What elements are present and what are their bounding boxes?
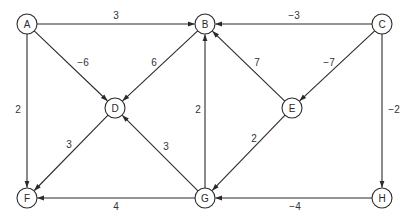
node-f: F	[17, 188, 37, 208]
node-label: C	[378, 19, 385, 30]
node-b: B	[195, 14, 215, 34]
edge-a-to-d	[34, 31, 107, 101]
edge-g-to-d	[122, 115, 198, 191]
edge-weight-label: 4	[113, 201, 119, 212]
edge-e-to-b	[213, 31, 285, 101]
edge-weight-label: 3	[113, 10, 119, 21]
edge-weight-label: 7	[254, 57, 260, 68]
edge-weight-label: −7	[323, 57, 335, 68]
node-h: H	[372, 188, 392, 208]
edge-d-to-f	[34, 115, 108, 190]
edge-weight-label: 2	[15, 104, 21, 115]
edge-weight-label: −6	[77, 57, 89, 68]
edges-layer	[27, 24, 382, 198]
edge-weight-label: 3	[163, 141, 169, 152]
node-c: C	[372, 14, 392, 34]
node-d: D	[105, 98, 125, 118]
weight-labels-layer: 3−626−3−7−2733224−4	[15, 10, 400, 212]
edge-weight-label: −4	[289, 201, 301, 212]
graph-diagram: 3−626−3−7−2733224−4 ABCDEFGH	[0, 0, 415, 217]
node-label: H	[378, 193, 385, 204]
node-label: B	[202, 19, 209, 30]
node-label: D	[111, 103, 118, 114]
edge-e-to-g	[212, 115, 285, 190]
node-a: A	[17, 14, 37, 34]
edge-weight-label: 6	[151, 57, 157, 68]
node-g: G	[195, 188, 215, 208]
edge-weight-label: 3	[66, 139, 72, 150]
edge-b-to-d	[123, 31, 198, 101]
edge-weight-label: 2	[195, 104, 201, 115]
edge-weight-label: −3	[288, 10, 300, 21]
node-label: F	[24, 193, 30, 204]
edge-weight-label: 2	[251, 133, 257, 144]
node-label: G	[201, 193, 209, 204]
edge-c-to-e	[300, 31, 375, 101]
node-label: E	[289, 103, 296, 114]
node-label: A	[24, 19, 31, 30]
node-e: E	[282, 98, 302, 118]
edge-weight-label: −2	[388, 104, 400, 115]
